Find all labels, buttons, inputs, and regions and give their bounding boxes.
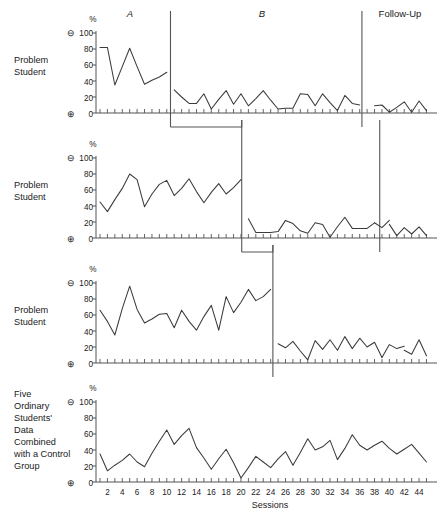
panel-4-label-line-7: Group [14,461,40,471]
x-tick-label-26: 26 [281,488,291,497]
x-tick-label-36: 36 [355,488,365,497]
panel-3-plot [92,245,437,377]
y-tick-4-40: 40 [84,447,94,456]
data-line-A [100,47,167,85]
x-tick-label-12: 12 [177,488,187,497]
plus-symbol-4: ⊕ [67,478,75,488]
phase-label-b: B [259,8,266,19]
panel-4-label-line-3: Students' [14,413,52,423]
panel-4-label-line-4: Data [14,425,34,435]
y-tick-1-100: 100 [79,29,93,38]
y-tick-3-20: 20 [84,344,94,353]
panel-control-group: % ⊖ ⊕ Five Ordinary Students' Data Combi… [13,384,437,510]
panel-4-label-line-5: Combined [14,437,56,447]
panel-problem-student-3: % ⊖ ⊕ Problem Student 100 80 60 40 20 0 [14,245,437,377]
figure-root: A B Follow-Up % ⊖ ⊕ Problem Student 100 … [0,0,442,514]
y-tick-1-40: 40 [84,78,94,87]
panel-problem-student-1: % ⊖ ⊕ Problem Student 100 80 60 40 20 0 [14,11,437,127]
x-tick-label-22: 22 [251,488,261,497]
y-tick-2-20: 20 [84,219,94,228]
data-line-A [100,286,271,335]
plus-symbol-1: ⊕ [67,109,75,119]
panel-3-label-line-1: Problem [14,305,49,315]
percent-symbol-4: % [89,384,96,393]
x-tick-label-20: 20 [236,488,246,497]
y-tick-2-40: 40 [84,203,94,212]
x-tick-label-14: 14 [192,488,202,497]
panel-problem-student-2: % ⊖ ⊕ Problem Student 100 80 60 40 20 0 [14,120,437,252]
y-tick-3-100: 100 [79,279,93,288]
x-tick-label-8: 8 [150,488,155,497]
y-tick-3-0: 0 [88,360,93,369]
phase-label-followup: Follow-Up [379,8,422,19]
y-tick-2-0: 0 [88,235,93,244]
panel-2-label-line-2: Student [14,192,46,202]
data-line-B2 [375,220,390,227]
x-tick-label-30: 30 [311,488,321,497]
plus-symbol-3: ⊕ [67,359,75,369]
x-tick-label-34: 34 [340,488,350,497]
data-line-B [174,90,360,111]
phase-connector [242,245,273,252]
percent-symbol-1: % [89,15,96,24]
y-tick-4-20: 20 [84,463,94,472]
x-tick-label-4: 4 [120,488,125,497]
y-tick-4-100: 100 [79,398,93,407]
panel-2-label-line-1: Problem [14,180,49,190]
multiple-baseline-chart: A B Follow-Up % ⊖ ⊕ Problem Student 100 … [0,0,442,514]
x-tick-label-44: 44 [415,488,425,497]
y-tick-4-0: 0 [88,479,93,488]
x-tick-label-32: 32 [325,488,335,497]
percent-symbol-2: % [89,140,96,149]
data-line-A [100,174,241,212]
minus-symbol-4: ⊖ [67,397,75,407]
x-tick-label-2: 2 [105,488,110,497]
panel-4-label-line-2: Ordinary [14,401,50,411]
y-tick-2-100: 100 [79,154,93,163]
x-tick-label-40: 40 [385,488,395,497]
data-line-B [278,337,382,360]
x-tick-label-16: 16 [207,488,217,497]
panel-1-label-line-1: Problem [14,55,49,65]
percent-symbol-3: % [89,265,96,274]
data-line-B3 [404,340,426,356]
x-tick-label-28: 28 [296,488,306,497]
panel-4-label-line-6: with a Control [13,449,70,459]
x-tick-label-6: 6 [135,488,140,497]
phase-label-a: A [126,8,133,19]
data-line-B [248,217,374,237]
y-tick-3-40: 40 [84,328,94,337]
panel-1-label-line-2: Student [14,67,46,77]
panel-4-label-line-1: Five [14,389,31,399]
y-tick-1-0: 0 [88,110,93,119]
minus-symbol-1: ⊖ [67,28,75,38]
x-axis-title: Sessions [252,500,289,510]
panel-1-plot [92,11,437,127]
y-tick-1-20: 20 [84,94,94,103]
panel-4-plot [92,400,437,482]
x-tick-label-24: 24 [266,488,276,497]
data-line-Follow-Up [389,224,426,235]
data-line-All [100,428,426,478]
x-tick-label-38: 38 [370,488,380,497]
x-axis-tick-labels: 2468101214161820222426283032343638404244 [105,488,424,497]
minus-symbol-2: ⊖ [67,153,75,163]
phase-connector [170,120,241,127]
minus-symbol-3: ⊖ [67,278,75,288]
x-tick-label-42: 42 [400,488,410,497]
plus-symbol-2: ⊕ [67,234,75,244]
x-tick-label-18: 18 [222,488,232,497]
x-tick-label-10: 10 [162,488,172,497]
panel-3-label-line-2: Student [14,317,46,327]
data-line-B2 [382,345,404,358]
panel-2-plot [92,120,437,252]
